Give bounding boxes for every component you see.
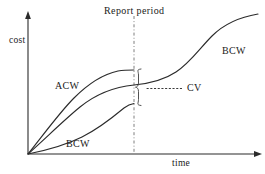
x-axis-label: time xyxy=(172,159,190,169)
chart-canvas xyxy=(0,0,265,174)
cost-variance-label: CV xyxy=(187,83,202,93)
x-axis-arrow-icon xyxy=(254,151,262,157)
y-axis-label: cost xyxy=(9,36,26,46)
acw-series-label: ACW xyxy=(55,81,79,91)
x-axis xyxy=(28,151,262,157)
y-axis-arrow-icon xyxy=(25,11,31,19)
report-period-title: Report period xyxy=(104,6,164,16)
cost-variance-brace xyxy=(136,69,142,106)
y-axis xyxy=(25,11,31,154)
bcw-lower-series-label: BCW xyxy=(66,139,90,149)
earned-value-chart: Report period cost time ACW BCW BCW CV xyxy=(0,0,265,174)
bcw-right-series-label: BCW xyxy=(222,46,246,56)
